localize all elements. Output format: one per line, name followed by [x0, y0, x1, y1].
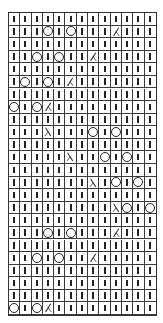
yarn-over-icon: [122, 202, 133, 215]
knit-stitch-icon: [122, 227, 133, 240]
knit-stitch-icon: [145, 277, 156, 290]
knit-stitch-icon: [99, 177, 110, 190]
knit-stitch-icon: [77, 177, 88, 190]
knit-stitch-icon: [32, 89, 43, 102]
knit-stitch-icon: [43, 13, 54, 26]
knit-stitch-icon: [77, 240, 88, 253]
knit-stitch-icon: [20, 302, 31, 315]
knit-stitch-icon: [77, 89, 88, 102]
knit-stitch-icon: [111, 89, 122, 102]
yarn-over-icon: [43, 227, 54, 240]
knit-stitch-icon: [99, 277, 110, 290]
knit-stitch-icon: [99, 290, 110, 303]
knit-stitch-icon: [65, 177, 76, 190]
knit-stitch-icon: [65, 189, 76, 202]
yarn-over-icon: [9, 302, 20, 315]
k2tog-icon: [111, 26, 122, 39]
chart-row: [9, 227, 156, 240]
knit-stitch-icon: [88, 101, 99, 114]
knit-stitch-icon: [54, 89, 65, 102]
knit-stitch-icon: [77, 164, 88, 177]
knit-stitch-icon: [111, 76, 122, 89]
knit-stitch-icon: [111, 240, 122, 253]
knit-stitch-icon: [88, 189, 99, 202]
knit-stitch-icon: [65, 51, 76, 64]
knit-stitch-icon: [145, 38, 156, 51]
knit-stitch-icon: [43, 139, 54, 152]
knit-stitch-icon: [54, 139, 65, 152]
knit-stitch-icon: [122, 76, 133, 89]
k2tog-icon: [65, 76, 76, 89]
knit-stitch-icon: [43, 51, 54, 64]
knit-stitch-icon: [9, 126, 20, 139]
knit-stitch-icon: [88, 290, 99, 303]
knit-stitch-icon: [145, 189, 156, 202]
knit-stitch-icon: [32, 13, 43, 26]
yarn-over-icon: [65, 26, 76, 39]
yarn-over-icon: [65, 227, 76, 240]
knit-stitch-icon: [133, 126, 144, 139]
knit-stitch-icon: [145, 139, 156, 152]
knit-stitch-icon: [54, 240, 65, 253]
knit-stitch-icon: [54, 227, 65, 240]
knit-stitch-icon: [9, 89, 20, 102]
knit-stitch-icon: [145, 252, 156, 265]
knit-stitch-icon: [43, 265, 54, 278]
knit-stitch-icon: [20, 214, 31, 227]
knit-stitch-icon: [145, 302, 156, 315]
ssk-icon: [111, 202, 122, 215]
knit-stitch-icon: [20, 126, 31, 139]
chart-row: [9, 214, 156, 227]
knit-stitch-icon: [77, 26, 88, 39]
knit-stitch-icon: [145, 76, 156, 89]
knit-stitch-icon: [111, 189, 122, 202]
yarn-over-icon: [133, 177, 144, 190]
knit-stitch-icon: [122, 164, 133, 177]
ssk-icon: [43, 126, 54, 139]
knit-stitch-icon: [88, 114, 99, 127]
knit-stitch-icon: [111, 290, 122, 303]
knit-stitch-icon: [88, 202, 99, 215]
knit-stitch-icon: [111, 151, 122, 164]
chart-row: [9, 114, 156, 127]
knit-stitch-icon: [43, 114, 54, 127]
knit-stitch-icon: [145, 89, 156, 102]
knit-stitch-icon: [122, 26, 133, 39]
knit-stitch-icon: [99, 202, 110, 215]
knit-stitch-icon: [65, 252, 76, 265]
knit-stitch-icon: [65, 214, 76, 227]
knit-stitch-icon: [111, 302, 122, 315]
knit-stitch-icon: [32, 240, 43, 253]
knit-stitch-icon: [54, 290, 65, 303]
knit-stitch-icon: [9, 277, 20, 290]
chart-row: [9, 164, 156, 177]
chart-row: [9, 277, 156, 290]
knit-stitch-icon: [133, 252, 144, 265]
knit-stitch-icon: [20, 252, 31, 265]
chart-row: [9, 302, 156, 315]
knit-stitch-icon: [65, 114, 76, 127]
knit-stitch-icon: [122, 302, 133, 315]
chart-row: [9, 202, 156, 215]
knit-stitch-icon: [99, 164, 110, 177]
knit-stitch-icon: [111, 38, 122, 51]
knit-stitch-icon: [77, 126, 88, 139]
knit-stitch-icon: [20, 290, 31, 303]
knit-stitch-icon: [77, 63, 88, 76]
knit-stitch-icon: [43, 277, 54, 290]
knit-stitch-icon: [32, 114, 43, 127]
knit-stitch-icon: [133, 164, 144, 177]
knit-stitch-icon: [133, 302, 144, 315]
knit-stitch-icon: [9, 240, 20, 253]
knit-stitch-icon: [54, 114, 65, 127]
knit-stitch-icon: [133, 76, 144, 89]
knit-stitch-icon: [133, 139, 144, 152]
knit-stitch-icon: [111, 265, 122, 278]
knit-stitch-icon: [133, 114, 144, 127]
knit-stitch-icon: [32, 38, 43, 51]
knit-stitch-icon: [77, 51, 88, 64]
knit-stitch-icon: [77, 38, 88, 51]
knit-stitch-icon: [54, 214, 65, 227]
knit-stitch-icon: [88, 240, 99, 253]
knit-stitch-icon: [99, 51, 110, 64]
